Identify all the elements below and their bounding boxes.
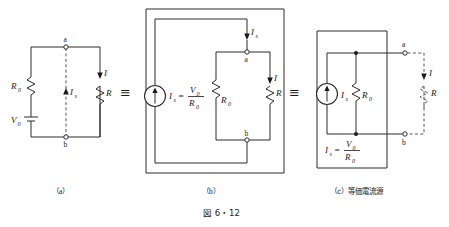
- panel-b-label-injected-is-sub: s: [256, 33, 259, 39]
- panel-a-label-is-sub: s: [75, 93, 78, 99]
- panel-c-caption: （c）等価電流源: [330, 186, 384, 196]
- panel-c-junction-dot-bottom: [354, 132, 358, 136]
- panel-c-label-r: R: [430, 88, 437, 98]
- panel-b-terminal-a: [245, 50, 249, 54]
- panel-c-formula-denominator-sub: 0: [352, 158, 355, 164]
- equivalence-symbol-2: ≡: [289, 85, 300, 100]
- panel-b-label-i: I: [273, 73, 278, 83]
- panel-b-label-r0-sub: 0: [228, 101, 231, 107]
- panel-c-label-node-a: a: [402, 40, 406, 49]
- panel-a-current-i-arrow: [97, 73, 103, 80]
- panel-a-label-node-a: a: [64, 35, 68, 44]
- panel-b-label-injected-is-main: I: [250, 27, 255, 37]
- panel-c-current-i-arrow: [421, 74, 427, 81]
- panel-b: I s a b I s = V 0 R 0 R 0 I R （b）: [145, 9, 285, 196]
- panel-a-label-r0: R 0: [10, 81, 21, 93]
- circuit-figure: a b R 0 V 0 I s I R （a） ≡: [0, 0, 449, 227]
- panel-c-label-r0-main: R: [361, 90, 368, 100]
- panel-a-label-v0-sub: 0: [18, 121, 21, 127]
- panel-c-label-r0: R 0: [361, 90, 372, 102]
- panel-b-label-r0: R 0: [220, 95, 231, 107]
- panel-c-label-is-main: I: [340, 90, 345, 100]
- panel-c-formula-equals: =: [334, 145, 340, 155]
- panel-c-formula-lhs-sub: s: [330, 151, 333, 157]
- panel-c-label-node-b: b: [402, 138, 406, 147]
- panel-a-label-v0: V 0: [11, 115, 21, 127]
- panel-b-formula-numerator-sub: 0: [197, 91, 200, 97]
- panel-b-label-r: R: [275, 88, 282, 98]
- panel-c: I s R 0 a b I R I s = V 0 R 0 （c）等: [317, 31, 438, 196]
- panel-c-formula-lhs: I: [324, 145, 329, 155]
- panel-c-terminal-b: [403, 132, 407, 136]
- panel-b-terminal-b: [245, 138, 249, 142]
- panel-c-terminal-a: [403, 51, 407, 55]
- figure-container: a b R 0 V 0 I s I R （a） ≡: [0, 0, 449, 227]
- panel-b-formula-denominator: R: [188, 98, 195, 108]
- panel-a-current-is-arrow: [63, 88, 69, 95]
- panel-b-label-r0-main: R: [220, 95, 227, 105]
- equivalence-symbol-1: ≡: [120, 85, 131, 100]
- panel-a-terminal-b: [64, 135, 68, 139]
- panel-b-label-injected-is: I s: [250, 27, 259, 39]
- panel-c-label-i: I: [428, 68, 433, 78]
- panel-a-label-r0-main: R: [10, 81, 17, 91]
- panel-c-label-is-sub: s: [346, 96, 349, 102]
- panel-a-label-r0-sub: 0: [18, 87, 21, 93]
- panel-b-caption: （b）: [202, 187, 220, 196]
- panel-b-source-formula: I s = V 0 R 0: [168, 85, 204, 110]
- panel-b-outer-box: [146, 9, 284, 173]
- panel-b-label-node-a: a: [245, 55, 249, 64]
- panel-a-resistor-r0-symbol: [27, 77, 35, 97]
- panel-b-injected-current-arrow: [244, 34, 250, 41]
- panel-c-load-top-dashed-wire: [408, 53, 425, 74]
- panel-a: a b R 0 V 0 I s I R （a）: [10, 35, 112, 196]
- panel-c-resistor-r0-symbol: [352, 83, 360, 134]
- panel-c-load-bottom-dashed-wire: [408, 86, 425, 134]
- panel-b-resistor-r0-symbol: [212, 80, 220, 140]
- panel-a-label-is-main: I: [69, 87, 74, 97]
- panel-c-label-r0-sub: 0: [369, 96, 372, 102]
- panel-b-resistor-r-symbol: [266, 86, 274, 140]
- panel-c-formula-numerator-sub: 0: [353, 145, 356, 151]
- panel-b-current-i-arrow: [267, 78, 273, 85]
- panel-a-label-node-b: b: [64, 140, 68, 149]
- panel-c-formula: I s = V 0 R 0: [324, 139, 360, 164]
- panel-b-formula-denominator-sub: 0: [196, 104, 199, 110]
- figure-number-caption: 図 6・12: [203, 208, 240, 218]
- panel-b-formula-equals: =: [178, 91, 184, 101]
- panel-b-label-node-b: b: [245, 129, 249, 138]
- panel-b-formula-lhs: I: [168, 91, 173, 101]
- panel-c-label-is: I s: [340, 90, 349, 102]
- panel-a-label-i: I: [103, 68, 108, 78]
- panel-a-label-is: I s: [69, 87, 78, 99]
- panel-c-formula-denominator: R: [344, 152, 351, 162]
- panel-a-terminal-a: [64, 45, 68, 49]
- panel-a-label-r: R: [105, 88, 112, 98]
- panel-b-formula-lhs-sub: s: [174, 97, 177, 103]
- panel-c-junction-dot-top: [354, 51, 358, 55]
- panel-a-caption: （a）: [52, 187, 69, 196]
